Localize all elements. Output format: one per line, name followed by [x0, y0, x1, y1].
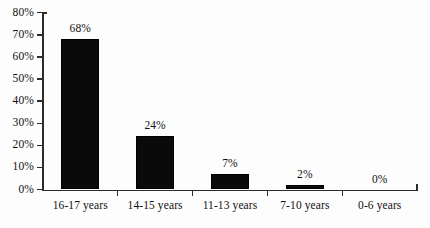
- y-axis-tick: [37, 123, 42, 124]
- x-axis-tick: [342, 191, 343, 196]
- bar-value-label: 2%: [265, 169, 345, 181]
- bar: [61, 39, 99, 189]
- bar: [136, 136, 174, 189]
- x-axis-tick: [117, 191, 118, 196]
- x-axis-category-label: 0-6 years: [335, 200, 425, 212]
- bar-value-label: 0%: [340, 174, 420, 186]
- y-axis-tick-label: 10%: [0, 161, 34, 173]
- y-axis-tick-label: 0%: [0, 184, 34, 196]
- bar-chart: 0%10%20%30%40%50%60%70%80% 68%24%7%2%0% …: [0, 0, 430, 228]
- bar-value-label: 68%: [40, 23, 120, 35]
- y-axis-tick: [37, 78, 42, 79]
- y-axis-line: [42, 12, 44, 191]
- y-axis-tick-label: 80%: [0, 7, 34, 19]
- y-axis-tick: [37, 145, 42, 146]
- y-axis-tick: [37, 12, 42, 13]
- y-axis-tick: [37, 167, 42, 168]
- y-axis-tick: [37, 100, 42, 101]
- y-axis-tick-label: 70%: [0, 29, 34, 41]
- x-axis-tick: [267, 191, 268, 196]
- y-axis-top-cap: [42, 12, 47, 14]
- y-axis-tick: [37, 189, 42, 190]
- y-axis-tick-label: 60%: [0, 51, 34, 63]
- y-axis-tick: [37, 56, 42, 57]
- y-axis-tick-label: 20%: [0, 139, 34, 151]
- y-axis-tick-label: 40%: [0, 95, 34, 107]
- x-axis-tick: [192, 191, 193, 196]
- bar-value-label: 24%: [115, 120, 195, 132]
- y-axis-tick-label: 30%: [0, 117, 34, 129]
- bar-value-label: 7%: [190, 158, 270, 170]
- y-axis-tick-label: 50%: [0, 73, 34, 85]
- bar: [211, 174, 249, 189]
- bar: [286, 185, 324, 189]
- x-axis-line: [42, 190, 418, 192]
